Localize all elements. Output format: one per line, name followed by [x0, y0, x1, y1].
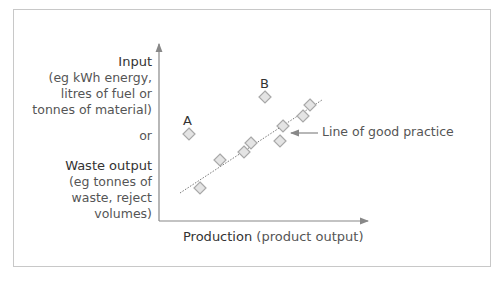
scatter-plot: [0, 0, 502, 293]
diamond-marker: [245, 137, 257, 149]
diamond-marker: [183, 128, 195, 140]
diamond-marker: [274, 135, 286, 147]
trend-line-label: Line of good practice: [322, 124, 454, 139]
diamond-marker: [214, 154, 226, 166]
point-label-b: B: [260, 76, 269, 91]
diamond-marker: [297, 110, 309, 122]
diamond-marker: [304, 99, 316, 111]
diamond-marker: [194, 182, 206, 194]
point-label-a: A: [183, 113, 192, 128]
diamond-marker: [277, 120, 289, 132]
diamond-marker: [259, 91, 271, 103]
